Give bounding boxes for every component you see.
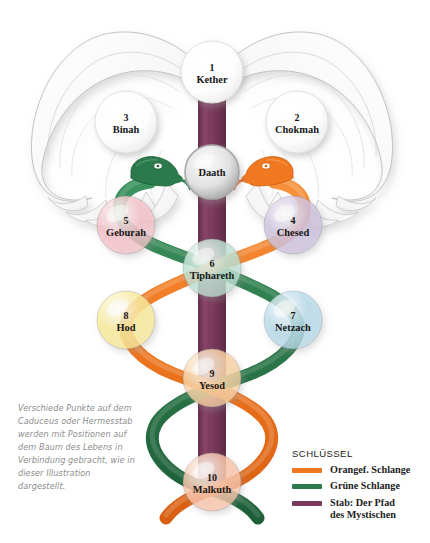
legend-item: Stab: Der Pfad des Mystischen	[292, 497, 428, 522]
illustration-canvas: 1Kether2Chokmah3BinahDaath4Chesed5Gebura…	[0, 0, 430, 543]
legend-swatch	[292, 484, 322, 489]
legend-item: Grüne Schlange	[292, 480, 428, 492]
sephira-chokmah[interactable]: 2Chokmah	[266, 91, 328, 153]
legend-label: Stab: Der Pfad des Mystischen	[330, 497, 396, 522]
sephira-label: Yesod	[199, 380, 225, 391]
legend: SCHLÜSSEL Orangef. SchlangeGrüne Schlang…	[292, 448, 428, 526]
sephira-label: Malkuth	[193, 484, 232, 495]
sephira-number: 6	[210, 258, 215, 269]
legend-title: SCHLÜSSEL	[292, 448, 428, 459]
sephira-number: 3	[124, 112, 129, 123]
sephira-label: Tiphareth	[190, 270, 235, 281]
sephira-malkuth[interactable]: 10Malkuth	[183, 453, 241, 511]
sephira-number: 7	[291, 310, 296, 321]
legend-swatch	[292, 468, 322, 473]
legend-swatch	[292, 501, 322, 506]
sephira-label: Chokmah	[275, 124, 319, 135]
sephira-number: 8	[124, 310, 129, 321]
sephira-label: Daath	[198, 167, 225, 178]
sephira-binah[interactable]: 3Binah	[95, 91, 157, 153]
sephira-number: 5	[124, 215, 129, 226]
sephira-number: 2	[295, 112, 300, 123]
legend-rows: Orangef. SchlangeGrüne SchlangeStab: Der…	[292, 464, 428, 522]
sephira-label: Binah	[113, 124, 140, 135]
sephira-geburah[interactable]: 5Geburah	[97, 196, 155, 254]
sephira-label: Geburah	[106, 227, 146, 238]
sephira-yesod[interactable]: 9Yesod	[183, 349, 241, 407]
sephira-hod[interactable]: 8Hod	[97, 291, 155, 349]
sephira-daath[interactable]: Daath	[185, 145, 239, 199]
sephira-number: 9	[210, 368, 215, 379]
sephira-number: 10	[207, 472, 217, 483]
sephira-label: Chesed	[277, 227, 310, 238]
sephira-netzach[interactable]: 7Netzach	[264, 291, 322, 349]
sephira-number: 1	[210, 62, 215, 73]
legend-item: Orangef. Schlange	[292, 464, 428, 476]
legend-label: Orangef. Schlange	[330, 464, 410, 476]
sephira-label: Hod	[116, 322, 135, 333]
sephira-chesed[interactable]: 4Chesed	[264, 196, 322, 254]
legend-label: Grüne Schlange	[330, 480, 400, 492]
sephira-number: 4	[291, 215, 296, 226]
illustration-caption: Verschiede Punkte auf dem Caduceus oder …	[18, 402, 140, 493]
sephira-tiphareth[interactable]: 6Tiphareth	[183, 239, 241, 297]
sephira-kether[interactable]: 1Kether	[181, 41, 243, 103]
sephira-label: Kether	[196, 74, 228, 85]
sephira-label: Netzach	[275, 322, 311, 333]
